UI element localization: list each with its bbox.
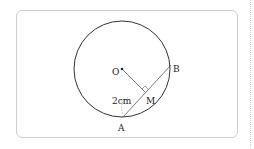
chord-ab [123,65,171,117]
center-point-o [121,68,124,71]
label-o: O [112,67,119,77]
label-a: A [117,123,125,133]
label-m: M [146,96,155,106]
segment-om [122,69,145,92]
length-label: 2cm [112,96,132,106]
label-b: B [173,64,180,74]
right-angle-mark [142,86,148,89]
geometry-diagram: O B M A 2cm [0,0,254,149]
